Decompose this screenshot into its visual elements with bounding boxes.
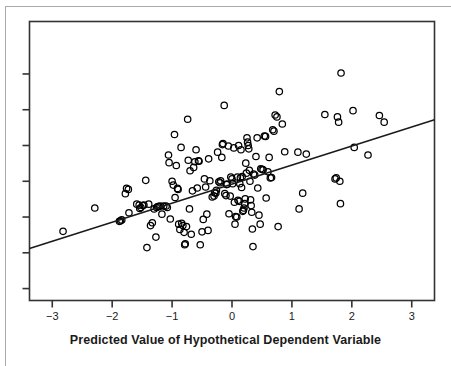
plot-frame — [30, 22, 435, 301]
x-axis-title: Predicted Value of Hypothetical Dependen… — [0, 333, 451, 347]
scatter-figure: −3−2−10123 Predicted Value of Hypothetic… — [0, 0, 451, 366]
x-tick-label-4: 1 — [280, 310, 304, 322]
x-tick-label-3: 0 — [220, 310, 244, 322]
x-tick-label-6: 3 — [400, 310, 424, 322]
x-tick-label-1: −2 — [100, 310, 124, 322]
x-axis-ticks — [52, 301, 411, 308]
x-tick-label-2: −1 — [160, 310, 184, 322]
figure-page: −3−2−10123 Predicted Value of Hypothetic… — [0, 0, 451, 366]
y-axis-ticks — [23, 74, 30, 289]
x-tick-label-0: −3 — [40, 310, 64, 322]
x-tick-label-5: 2 — [340, 310, 364, 322]
